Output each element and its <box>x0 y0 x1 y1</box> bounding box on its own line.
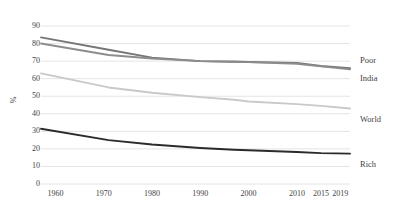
series-label-india: India <box>360 74 377 83</box>
series-label-poor: Poor <box>360 56 376 65</box>
series-line-india <box>41 44 350 70</box>
plot-area <box>0 0 405 213</box>
line-chart: % 9080706050403020100 196019701980199020… <box>0 0 405 213</box>
series-line-poor <box>41 37 350 68</box>
series-label-world: World <box>360 115 381 124</box>
series-line-rich <box>41 129 350 154</box>
series-label-rich: Rich <box>360 160 376 169</box>
series-lines <box>41 37 350 153</box>
